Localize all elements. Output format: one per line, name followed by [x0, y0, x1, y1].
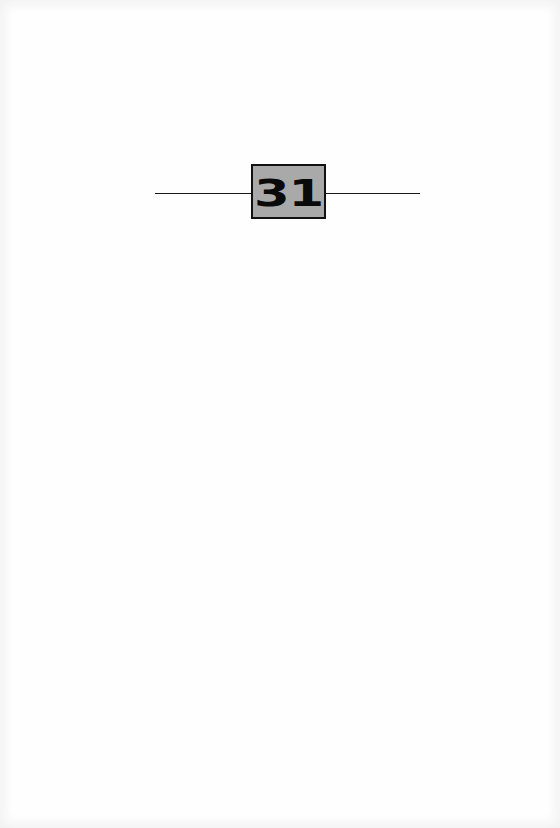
- chapter-number-box: 31: [251, 164, 326, 219]
- chapter-number: 31: [254, 174, 323, 212]
- decorative-rule-left: [155, 193, 252, 194]
- decorative-rule-right: [325, 193, 420, 194]
- book-page: 31: [0, 0, 560, 828]
